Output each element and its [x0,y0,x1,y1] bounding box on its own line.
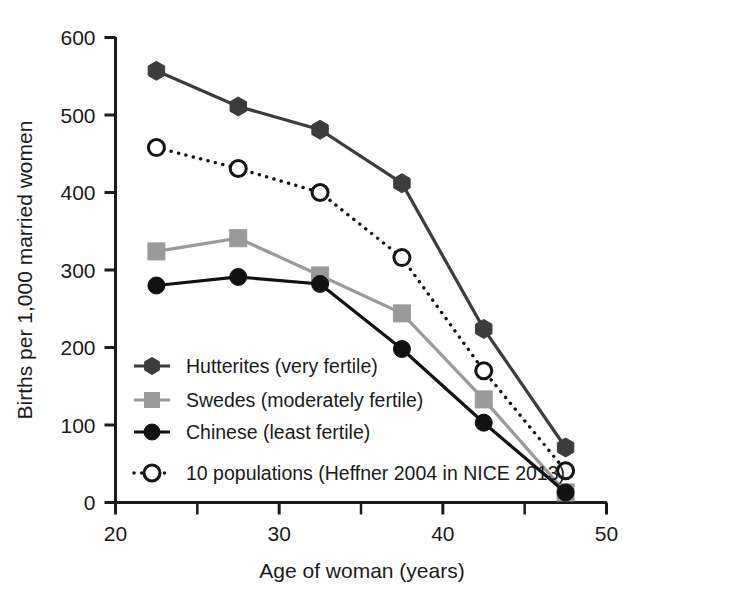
data-point-marker [557,484,574,501]
data-point-marker [145,358,160,375]
data-point-marker [393,341,410,358]
y-tick-label: 500 [60,104,95,127]
data-point-marker [475,414,492,431]
data-point-marker [312,275,329,292]
data-point-marker [475,391,492,408]
data-point-marker [230,97,246,116]
data-point-marker [394,174,410,193]
data-point-marker [148,140,164,156]
legend-label: 10 populations (Heffner 2004 in NICE 201… [186,462,565,484]
legend-item: 10 populations (Heffner 2004 in NICE 201… [134,462,565,484]
y-tick-label: 100 [60,414,95,437]
data-point-marker [394,250,410,266]
y-tick-label: 300 [60,259,95,282]
chart-canvas: 0100200300400500600 20304050 Births per … [0,0,734,598]
y-tick-label: 200 [60,336,95,359]
x-tick-label: 50 [595,522,618,545]
data-point-marker [312,120,328,139]
y-tick-label: 400 [60,181,95,204]
y-tick-label: 0 [84,491,96,514]
data-point-marker [144,465,160,481]
data-point-marker [144,424,160,440]
legend-label: Swedes (moderately fertile) [186,389,423,411]
data-point-marker [476,319,492,338]
data-point-marker [312,185,328,201]
legend-label: Hutterites (very fertile) [186,355,378,377]
data-point-marker [393,305,410,322]
data-point-marker [476,363,492,379]
data-point-marker [230,268,247,285]
data-point-marker [148,61,164,80]
y-tick-label: 600 [60,26,95,49]
legend-label: Chinese (least fertile) [186,421,370,443]
x-tick-label: 30 [267,522,290,545]
data-point-marker [148,277,165,294]
x-axis-title: Age of woman (years) [259,559,464,582]
data-point-marker [148,243,165,260]
data-point-marker [557,438,573,457]
y-axis-title: Births per 1,000 married women [13,121,36,420]
x-tick-label: 20 [104,522,127,545]
data-point-marker [230,230,247,247]
fertility-by-age-chart: 0100200300400500600 20304050 Births per … [0,0,734,598]
data-point-marker [230,160,246,176]
chart-background [0,0,734,598]
x-tick-label: 40 [431,522,454,545]
data-point-marker [145,393,160,408]
